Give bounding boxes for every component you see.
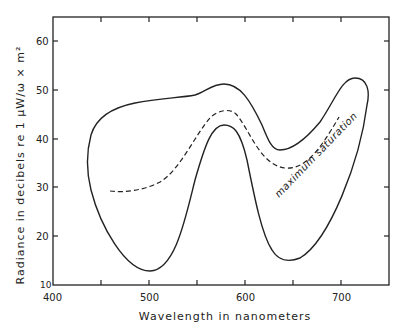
x-axis-title: Wavelength in nanometers xyxy=(139,310,312,323)
y-tick-label-20: 20 xyxy=(36,231,49,242)
maximum-saturation-curve xyxy=(110,111,339,192)
x-axis-ticks-top xyxy=(101,17,341,22)
plot-frame xyxy=(53,17,389,285)
x-tick-label-600: 600 xyxy=(236,292,255,303)
x-tick-label-500: 500 xyxy=(140,292,159,303)
y-tick-label-40: 40 xyxy=(36,134,49,145)
y-tick-label-60: 60 xyxy=(36,36,49,47)
y-axis-ticks-left xyxy=(53,41,58,236)
x-axis-ticks-bottom xyxy=(101,280,341,285)
y-axis-title: Radiance in decibels re 1 μW/ω × m² xyxy=(14,46,27,285)
y-tick-label-50: 50 xyxy=(36,85,49,96)
y-tick-label-10: 10 xyxy=(40,280,52,290)
x-tick-label-700: 700 xyxy=(332,292,351,303)
x-tick-label-400: 400 xyxy=(43,292,62,303)
boundary-contour xyxy=(88,78,369,271)
y-axis-ticks-right xyxy=(384,41,389,236)
y-tick-label-30: 30 xyxy=(36,182,49,193)
chart: 60 50 40 30 20 10 400 500 600 700 Wavele… xyxy=(0,0,403,333)
